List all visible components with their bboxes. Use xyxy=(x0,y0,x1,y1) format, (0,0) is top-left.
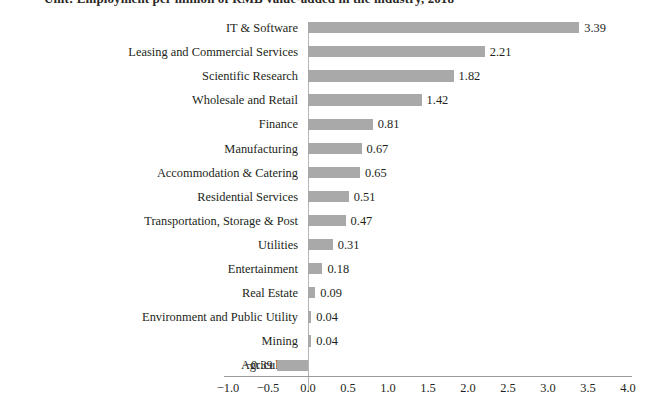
value-label: −0.39 xyxy=(235,353,273,377)
value-label: 0.81 xyxy=(378,112,400,136)
bar xyxy=(308,239,333,250)
bar-row: Residential Services0.51 xyxy=(0,185,649,209)
bar xyxy=(308,119,373,130)
x-tick-label: 0.0 xyxy=(288,381,328,396)
bar xyxy=(308,191,349,202)
x-tick-label: 4.0 xyxy=(608,381,648,396)
bar-row: Utilities0.31 xyxy=(0,233,649,257)
value-label: 0.09 xyxy=(320,281,342,305)
category-label: Finance xyxy=(0,112,298,136)
chart-title: Unit: Employment per million of RMB valu… xyxy=(44,0,454,7)
plot-area: IT & Software3.39Leasing and Commercial … xyxy=(0,16,649,376)
category-label: Transportation, Storage & Post xyxy=(0,209,298,233)
value-label: 0.65 xyxy=(365,161,387,185)
x-tick-label: 3.0 xyxy=(528,381,568,396)
bar xyxy=(308,263,322,274)
x-tick-label: 0.5 xyxy=(328,381,368,396)
bar-row: Mining0.04 xyxy=(0,329,649,353)
bar-row: IT & Software3.39 xyxy=(0,16,649,40)
bar xyxy=(277,360,308,371)
bar xyxy=(308,70,454,81)
value-label: 0.18 xyxy=(327,257,349,281)
bar xyxy=(308,94,422,105)
bar xyxy=(308,215,346,226)
value-label: 0.51 xyxy=(354,185,376,209)
bar-row: Wholesale and Retail1.42 xyxy=(0,88,649,112)
category-label: IT & Software xyxy=(0,16,298,40)
value-label: 2.21 xyxy=(490,40,512,64)
x-tick-label: 1.5 xyxy=(408,381,448,396)
bar xyxy=(308,167,360,178)
bar xyxy=(308,335,311,346)
x-tick-label: 2.5 xyxy=(488,381,528,396)
value-label: 1.42 xyxy=(427,88,449,112)
category-label: Wholesale and Retail xyxy=(0,88,298,112)
category-label: Residential Services xyxy=(0,185,298,209)
bar xyxy=(308,22,579,33)
bar-row: Finance0.81 xyxy=(0,112,649,136)
value-label: 3.39 xyxy=(584,16,606,40)
bar-row: Real Estate0.09 xyxy=(0,281,649,305)
bar-chart: Unit: Employment per million of RMB valu… xyxy=(0,0,649,411)
value-label: 0.47 xyxy=(351,209,373,233)
x-tick-label: 1.0 xyxy=(368,381,408,396)
value-label: 1.82 xyxy=(459,64,481,88)
bar-row: Transportation, Storage & Post0.47 xyxy=(0,209,649,233)
value-label: 0.04 xyxy=(316,329,338,353)
category-label: Manufacturing xyxy=(0,137,298,161)
x-axis-line xyxy=(224,376,632,377)
bar xyxy=(308,287,315,298)
category-label: Mining xyxy=(0,329,298,353)
bar xyxy=(308,143,362,154)
bar-row: Accommodation & Catering0.65 xyxy=(0,161,649,185)
value-label: 0.67 xyxy=(367,137,389,161)
value-label: 0.31 xyxy=(338,233,360,257)
bar-row: Manufacturing0.67 xyxy=(0,137,649,161)
category-label: Environment and Public Utility xyxy=(0,305,298,329)
category-label: Accommodation & Catering xyxy=(0,161,298,185)
bar-row: Environment and Public Utility0.04 xyxy=(0,305,649,329)
x-tick-label: 3.5 xyxy=(568,381,608,396)
category-label: Real Estate xyxy=(0,281,298,305)
bar-row: Entertainment0.18 xyxy=(0,257,649,281)
bar-row: Leasing and Commercial Services2.21 xyxy=(0,40,649,64)
value-label: 0.04 xyxy=(316,305,338,329)
bar-row: Scientific Research1.82 xyxy=(0,64,649,88)
category-label: Entertainment xyxy=(0,257,298,281)
x-tick-label: 2.0 xyxy=(448,381,488,396)
x-tick-label: −1.0 xyxy=(208,381,248,396)
bar-row: Agriculture−0.39 xyxy=(0,353,649,377)
x-tick-label: −0.5 xyxy=(248,381,288,396)
category-label: Utilities xyxy=(0,233,298,257)
category-label: Leasing and Commercial Services xyxy=(0,40,298,64)
bar xyxy=(308,46,485,57)
category-label: Scientific Research xyxy=(0,64,298,88)
bar xyxy=(308,311,311,322)
